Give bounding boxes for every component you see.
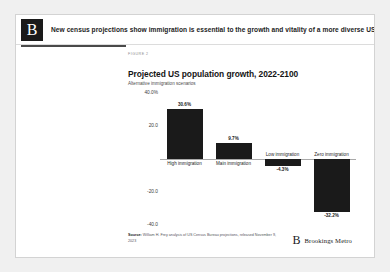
chart-subtitle: Alternative immigration scenarios [128,81,196,86]
category-label: Low immigration [266,152,299,157]
chart-title: Projected US population growth, 2022-210… [128,69,298,79]
source-note: Source: William H. Frey analysis of US C… [128,233,278,244]
figure-footer: Source: William H. Frey analysis of US C… [16,229,374,258]
source-label: Source: [128,233,142,237]
bar-value-label: -4.3% [276,167,288,172]
y-axis-tick-label: 20.0 [128,123,158,128]
brookings-metro-lockup: B Brookings Metro [292,234,352,246]
bar-slot: -32.2%Zero immigration [307,93,356,225]
bar [167,109,203,159]
category-label: High immigration [167,161,201,166]
masthead-divider [21,45,126,47]
brookings-metro-wordmark: Brookings Metro [305,237,353,244]
bar-value-label: -32.2% [324,213,339,218]
category-label: Zero immigration [314,152,348,157]
article-headline: New census projections show immigration … [51,26,375,34]
bar-group: 30.6%High immigration9.7%Main immigratio… [160,93,356,225]
article-card: B New census projections show immigratio… [15,14,375,258]
bar [216,143,252,159]
bar [265,159,301,166]
brookings-b-logo-icon: B [21,19,43,41]
y-axis-tick-label: 40.0% [128,90,158,95]
bar-slot: 30.6%High immigration [160,93,209,225]
bar [314,159,350,212]
brookings-b-icon: B [292,234,300,246]
bar-value-label: 30.6% [178,102,191,107]
chart-plot-area: 30.6%High immigration9.7%Main immigratio… [128,93,356,225]
figure-block: FIGURE 2 Projected US population growth,… [16,49,374,258]
category-label: Main immigration [216,161,251,166]
bar-slot: 9.7%Main immigration [209,93,258,225]
masthead: B New census projections show immigratio… [16,15,374,45]
y-axis-tick-label: -40.0 [128,222,158,227]
y-axis-tick-label: -20.0 [128,189,158,194]
page-root: B New census projections show immigratio… [0,0,390,272]
source-text: William H. Frey analysis of US Census Bu… [128,233,276,243]
figure-kicker: FIGURE 2 [128,52,149,56]
bar-value-label: 9.7% [228,136,238,141]
bar-slot: -4.3%Low immigration [258,93,307,225]
